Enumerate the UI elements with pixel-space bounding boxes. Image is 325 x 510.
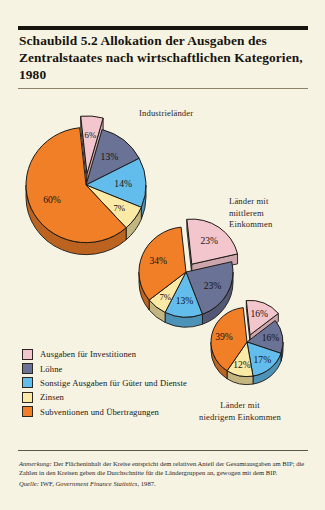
note-label: Anmerkung: (19, 460, 52, 467)
pie-slice-value-label: 39% (215, 331, 233, 342)
pie-slice-value-label: 6% (85, 130, 97, 140)
pie-slice-value-label: 60% (43, 194, 61, 205)
pie-slice-value-label: 7% (159, 292, 171, 302)
note-text: Der Flächeninhalt der Kreise entspricht … (19, 460, 304, 476)
legend-item: Löhne (22, 361, 232, 375)
source-text: IWF, (39, 480, 56, 487)
legend-item: Sonstige Ausgaben für Güter und Dienste (22, 376, 232, 390)
pie-slice-value-label: 13% (176, 295, 194, 306)
legend-item-label: Löhne (40, 364, 62, 374)
pie-group-label-mittleres-einkommen: Länder mitmittleremEinkommen (229, 196, 272, 231)
pie-group-label-industrielaender: Industrieländer (139, 108, 193, 120)
legend-swatch-icon (22, 349, 33, 360)
legend-item-label: Zinsen (40, 392, 64, 402)
bottom-rule (18, 450, 308, 451)
pie-slice-value-label: 23% (204, 280, 222, 291)
pie-slice-value-label: 12% (233, 359, 251, 370)
legend-item: Ausgaben für Investitionen (22, 347, 232, 361)
pie-group-label-line: Länder mit (229, 196, 272, 208)
legend: Ausgaben für InvestitionenLöhneSonstige … (22, 347, 232, 419)
source-title: Government Finance Statistics (56, 480, 138, 487)
title-underline-rule (18, 88, 308, 89)
figure-title: Schaubild 5.2 Allokation der Ausgaben de… (19, 32, 311, 83)
pie-slice-value-label: 16% (262, 332, 280, 343)
pie-2 (139, 219, 238, 327)
legend-swatch-icon (22, 406, 33, 417)
legend-swatch-icon (22, 377, 33, 388)
legend-swatch-icon (22, 363, 33, 374)
legend-item-label: Subventionen und Übertragungen (40, 407, 159, 417)
pie-slice-value-label: 13% (101, 151, 119, 162)
pie-group-label-line: Industrieländer (139, 108, 193, 120)
pie-slice-value-label: 34% (149, 255, 167, 266)
figure-note: Anmerkung: Der Flächeninhalt der Kreise … (19, 459, 309, 488)
top-rule (18, 26, 308, 30)
pie-slice-value-label: 17% (254, 354, 272, 365)
pie-group-label-line: Einkommen (229, 219, 272, 231)
figure-source: Quelle: IWF, Government Finance Statisti… (19, 479, 309, 488)
legend-swatch-icon (22, 392, 33, 403)
legend-item: Zinsen (22, 390, 232, 404)
figure-page: Schaubild 5.2 Allokation der Ausgaben de… (0, 0, 325, 510)
legend-item: Subventionen und Übertragungen (22, 405, 232, 419)
pie-slice-value-label: 7% (113, 203, 125, 213)
legend-item-label: Ausgaben für Investitionen (40, 349, 136, 359)
legend-item-label: Sonstige Ausgaben für Güter und Dienste (40, 378, 187, 388)
pie-group-label-line: mittlerem (229, 208, 272, 220)
source-year: , 1987. (137, 480, 155, 487)
pie-slice-value-label: 14% (114, 178, 132, 189)
pie-slice-value-label: 23% (200, 235, 218, 246)
pie-slice-value-label: 16% (251, 308, 269, 319)
source-label: Quelle: (19, 480, 39, 487)
